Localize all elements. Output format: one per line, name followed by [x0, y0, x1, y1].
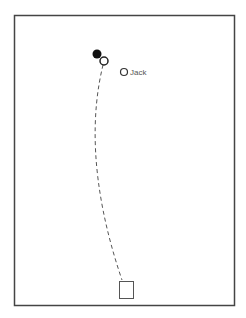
filled-player-marker — [93, 50, 102, 59]
jack-label: Jack — [130, 68, 147, 77]
diagram-canvas: Jack — [0, 0, 246, 318]
dashed-path — [95, 65, 122, 280]
field-frame — [15, 16, 235, 306]
jack-marker — [121, 69, 128, 76]
open-player-marker — [100, 57, 108, 65]
goal-box — [120, 282, 134, 299]
